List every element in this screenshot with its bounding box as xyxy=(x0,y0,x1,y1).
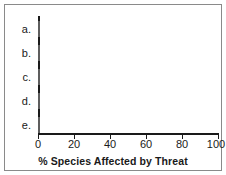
x-tick-label: 40 xyxy=(104,139,116,150)
bar-c xyxy=(38,69,40,85)
x-tick-label: 100 xyxy=(207,139,225,150)
bar-a xyxy=(38,21,40,37)
category-label: c. xyxy=(22,72,31,83)
bar-chart-figure: a. b. c. d. e. 0 xyxy=(0,0,226,175)
x-tick-label: 60 xyxy=(140,139,152,150)
category-label: e. xyxy=(22,120,31,131)
plot-area: a. b. c. d. e. xyxy=(38,17,218,133)
bar-d xyxy=(38,93,40,109)
x-tick-label: 80 xyxy=(176,139,188,150)
bar-e xyxy=(38,117,40,133)
figure-frame: a. b. c. d. e. 0 xyxy=(4,4,222,171)
x-axis-line xyxy=(38,133,219,135)
x-tick-label: 20 xyxy=(68,139,80,150)
category-label: d. xyxy=(22,96,31,107)
bar-b xyxy=(38,45,40,61)
category-label: a. xyxy=(22,24,31,35)
x-tick-label: 0 xyxy=(35,139,41,150)
x-axis-label: % Species Affected by Threat xyxy=(5,155,221,167)
category-label: b. xyxy=(22,48,31,59)
